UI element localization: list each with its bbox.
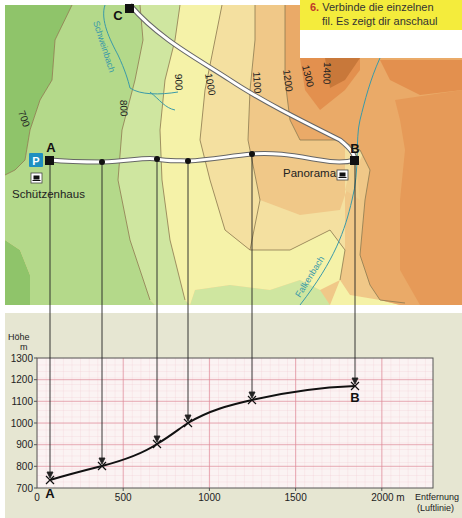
figure-map-profile: P C A B Schützenhaus Panorama Schweinbac… bbox=[0, 0, 462, 518]
svg-text:900: 900 bbox=[173, 74, 185, 91]
svg-text:1300: 1300 bbox=[11, 353, 34, 364]
task-instruction-box: 6. Verbinde die einzelnen fil. Es zeigt … bbox=[300, 0, 462, 30]
point-a-marker bbox=[45, 156, 54, 165]
svg-text:m: m bbox=[20, 342, 28, 352]
cafe-icon-schuetzenhaus bbox=[31, 173, 42, 183]
place-panorama: Panorama bbox=[283, 167, 337, 179]
svg-text:(Luftlinie): (Luftlinie) bbox=[417, 503, 454, 513]
svg-text:500: 500 bbox=[115, 492, 132, 503]
svg-text:800: 800 bbox=[118, 100, 130, 117]
svg-text:1100: 1100 bbox=[251, 71, 264, 94]
svg-text:1000: 1000 bbox=[198, 492, 221, 503]
svg-text:1100: 1100 bbox=[11, 396, 33, 407]
point-b-marker bbox=[350, 156, 359, 165]
svg-text:2000 m: 2000 m bbox=[371, 492, 404, 503]
svg-text:1200: 1200 bbox=[11, 374, 34, 385]
svg-text:800: 800 bbox=[16, 461, 33, 472]
point-a-label: A bbox=[46, 140, 56, 155]
svg-text:P: P bbox=[32, 155, 39, 167]
svg-text:1500: 1500 bbox=[284, 492, 307, 503]
y-axis-label: Höhe bbox=[8, 332, 30, 342]
point-b-label: B bbox=[350, 141, 359, 156]
point-c-label: C bbox=[113, 8, 123, 23]
svg-text:0: 0 bbox=[34, 492, 40, 503]
cafe-icon-panorama bbox=[337, 170, 348, 180]
topographic-map: P C A B Schützenhaus Panorama Schweinbac… bbox=[0, 4, 462, 313]
svg-text:700: 700 bbox=[16, 483, 33, 494]
svg-text:1400: 1400 bbox=[321, 62, 333, 85]
profile-label-a: A bbox=[45, 486, 55, 501]
place-schuetzenhaus: Schützenhaus bbox=[12, 188, 85, 200]
profile-label-b: B bbox=[350, 390, 359, 405]
point-c-marker bbox=[125, 4, 134, 13]
x-axis-label: Entfernung bbox=[415, 492, 459, 502]
svg-text:1000: 1000 bbox=[11, 418, 34, 429]
svg-text:900: 900 bbox=[16, 439, 33, 450]
